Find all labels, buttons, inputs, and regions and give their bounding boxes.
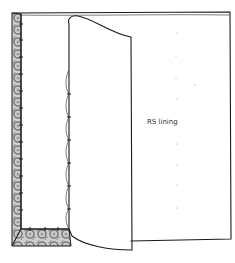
tack-marks <box>175 32 195 208</box>
stitch-marks-left <box>19 24 58 231</box>
sewing-diagram: RS lining <box>0 0 235 263</box>
patterned-fabric-bottom <box>12 229 71 246</box>
rs-lining-label: RS lining <box>147 118 178 126</box>
patterned-fabric-left <box>12 13 21 246</box>
lining-panel <box>12 12 231 241</box>
folded-lining-flap <box>69 16 132 250</box>
lining-top-edge <box>12 15 230 16</box>
inner-lining <box>21 14 69 229</box>
